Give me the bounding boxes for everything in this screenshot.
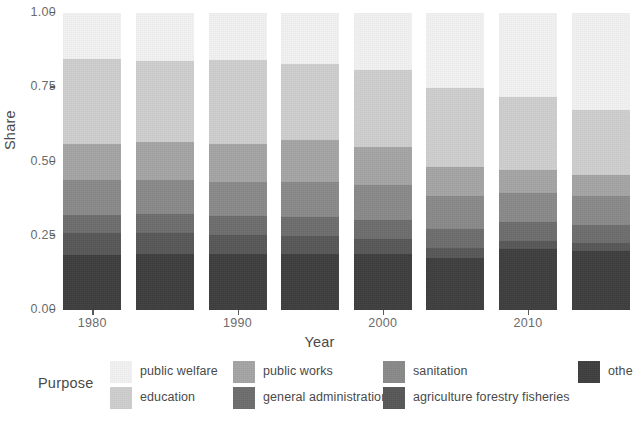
bar-segment-general-administration bbox=[136, 214, 194, 232]
grain-overlay bbox=[426, 229, 484, 248]
grain-overlay bbox=[499, 241, 557, 249]
legend-swatch-icon bbox=[383, 387, 405, 409]
y-tick-mark bbox=[50, 309, 55, 310]
bar-1990 bbox=[209, 13, 267, 310]
grain-overlay bbox=[63, 215, 121, 233]
bar-segment-general-administration bbox=[354, 220, 412, 239]
bar-segment-sanitation bbox=[136, 180, 194, 214]
bar-segment-education bbox=[63, 59, 121, 144]
bar-segment-general-administration bbox=[572, 225, 630, 243]
bar-segment-general-administration bbox=[499, 222, 557, 240]
bar-segment-other bbox=[354, 254, 412, 310]
bar-segment-education bbox=[426, 88, 484, 167]
grain-overlay bbox=[499, 170, 557, 192]
y-axis-title: Share bbox=[2, 128, 18, 150]
bar-segment-public-welfare bbox=[209, 13, 267, 60]
bar-segment-agriculture-forestry-fisheries bbox=[572, 243, 630, 250]
bar-2000 bbox=[354, 13, 412, 310]
bar-segment-agriculture-forestry-fisheries bbox=[426, 248, 484, 258]
grain-overlay bbox=[281, 217, 339, 236]
x-tick-label: 1980 bbox=[62, 316, 122, 330]
bar-segment-other bbox=[499, 249, 557, 310]
grain-overlay bbox=[209, 13, 267, 60]
bar-segment-public-welfare bbox=[572, 13, 630, 110]
bar-segment-agriculture-forestry-fisheries bbox=[499, 241, 557, 249]
bar-segment-agriculture-forestry-fisheries bbox=[281, 236, 339, 253]
grain-overlay bbox=[136, 61, 194, 142]
grain-overlay bbox=[499, 97, 557, 171]
grain-overlay bbox=[354, 13, 412, 70]
grain-overlay bbox=[572, 251, 630, 310]
bar-segment-education bbox=[209, 60, 267, 144]
bar-1985 bbox=[136, 13, 194, 310]
grain-overlay bbox=[281, 13, 339, 64]
bar-segment-education bbox=[499, 97, 557, 171]
grain-overlay bbox=[63, 180, 121, 215]
grain-overlay bbox=[209, 60, 267, 144]
grain-overlay bbox=[110, 387, 132, 409]
bar-segment-other bbox=[572, 251, 630, 310]
bar-1995 bbox=[281, 13, 339, 310]
grain-overlay bbox=[572, 196, 630, 225]
grain-overlay bbox=[110, 361, 132, 383]
plot-panel bbox=[56, 13, 637, 310]
bar-segment-public-works bbox=[572, 175, 630, 196]
bar-1980 bbox=[63, 13, 121, 310]
grain-overlay bbox=[383, 361, 405, 383]
grain-overlay bbox=[572, 243, 630, 250]
grain-overlay bbox=[281, 254, 339, 310]
y-tick: 0.75 bbox=[0, 87, 56, 88]
grain-overlay bbox=[426, 13, 484, 88]
bar-segment-public-works bbox=[499, 170, 557, 192]
bar-segment-general-administration bbox=[63, 215, 121, 233]
x-tick-label: 2000 bbox=[353, 316, 413, 330]
x-tick-mark bbox=[528, 310, 529, 315]
grain-overlay bbox=[281, 140, 339, 182]
y-tick-mark bbox=[50, 235, 55, 236]
legend-swatch-icon bbox=[383, 361, 405, 383]
legend-label: sanitation bbox=[413, 364, 468, 378]
bar-segment-public-works bbox=[354, 147, 412, 185]
bar-segment-other bbox=[209, 254, 267, 310]
x-tick-label: 2010 bbox=[498, 316, 558, 330]
legend-label: education bbox=[140, 390, 195, 404]
bar-segment-public-welfare bbox=[136, 13, 194, 61]
grain-overlay bbox=[572, 175, 630, 196]
legend-title: Purpose bbox=[38, 375, 93, 391]
grain-overlay bbox=[136, 142, 194, 180]
bar-segment-sanitation bbox=[354, 185, 412, 220]
grain-overlay bbox=[499, 193, 557, 223]
bar-segment-sanitation bbox=[426, 196, 484, 229]
y-tick: 0.50 bbox=[0, 162, 56, 163]
bar-2010 bbox=[499, 13, 557, 310]
grain-overlay bbox=[209, 254, 267, 310]
grain-overlay bbox=[383, 387, 405, 409]
bar-segment-public-welfare bbox=[281, 13, 339, 64]
grain-overlay bbox=[63, 13, 121, 59]
grain-overlay bbox=[209, 182, 267, 216]
grain-overlay bbox=[136, 254, 194, 310]
grain-overlay bbox=[209, 144, 267, 183]
x-tick-mark bbox=[238, 310, 239, 315]
bar-segment-public-welfare bbox=[63, 13, 121, 59]
grain-overlay bbox=[209, 235, 267, 253]
y-tick: 0.00 bbox=[0, 310, 56, 311]
legend-label: othe bbox=[608, 364, 633, 378]
grain-overlay bbox=[426, 167, 484, 196]
grain-overlay bbox=[136, 233, 194, 254]
bar-segment-public-welfare bbox=[499, 13, 557, 97]
grain-overlay bbox=[499, 249, 557, 310]
grain-overlay bbox=[233, 361, 255, 383]
bar-segment-other bbox=[426, 258, 484, 310]
legend-label: public works bbox=[263, 364, 333, 378]
grain-overlay bbox=[426, 258, 484, 310]
grain-overlay bbox=[572, 225, 630, 243]
bar-segment-general-administration bbox=[281, 217, 339, 236]
grain-overlay bbox=[572, 110, 630, 175]
bar-segment-education bbox=[572, 110, 630, 175]
bar-segment-sanitation bbox=[499, 193, 557, 223]
bar-segment-public-welfare bbox=[354, 13, 412, 70]
bar-segment-education bbox=[136, 61, 194, 142]
x-tick-mark bbox=[92, 310, 93, 315]
bar-segment-public-works bbox=[63, 144, 121, 180]
